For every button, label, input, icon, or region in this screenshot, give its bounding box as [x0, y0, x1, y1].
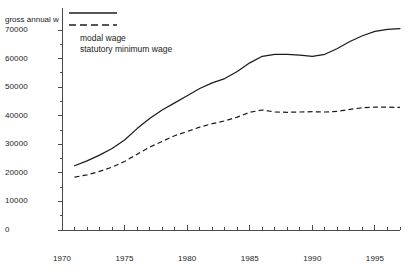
x-axis-tick-label: 1990 [292, 254, 332, 263]
x-axis-tick-label: 1970 [42, 254, 82, 263]
legend-label-modal-wage: modal wage [80, 33, 126, 44]
series-line-statutory-minimum-wage [75, 107, 400, 177]
y-axis-tick-label: 60000 [5, 54, 28, 63]
x-axis-tick-label: 1975 [105, 254, 145, 263]
y-axis-tick-label: 50000 [5, 82, 28, 91]
x-axis-tick-label: 1985 [230, 254, 270, 263]
y-axis-tick-label: 70000 [5, 25, 28, 34]
x-axis-tick-label: 1995 [355, 254, 395, 263]
chart-figure: gross annual w 0100002000030000400005000… [0, 0, 408, 279]
x-axis-tick-label: 1980 [167, 254, 207, 263]
y-axis-tick-label: 40000 [5, 111, 28, 120]
legend-key-modal-wage [69, 12, 117, 14]
legend-key-statutory-minimum-wage [69, 24, 117, 26]
y-axis-tick-label: 20000 [5, 168, 28, 177]
y-axis-tick-label: 0 [5, 225, 10, 234]
legend-label-statutory-minimum-wage: statutory minimum wage [80, 44, 172, 55]
y-axis-tick-label: 30000 [5, 139, 28, 148]
plot-canvas [0, 0, 408, 279]
y-axis-tick-label: 10000 [5, 196, 28, 205]
